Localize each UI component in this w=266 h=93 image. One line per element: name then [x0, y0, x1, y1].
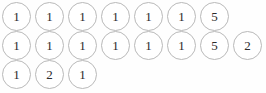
token-row: 1111115	[2, 2, 233, 31]
token-value: 1	[13, 10, 20, 23]
token-value: 5	[211, 10, 218, 23]
token-value: 1	[13, 68, 20, 81]
token-value: 2	[46, 68, 53, 81]
token-circle: 1	[68, 2, 97, 31]
token-value: 1	[79, 10, 86, 23]
token-value: 1	[46, 10, 53, 23]
token-circle: 1	[2, 2, 31, 31]
token-value: 1	[145, 10, 152, 23]
token-circle: 1	[101, 2, 130, 31]
token-circle: 2	[35, 60, 64, 89]
token-value: 1	[112, 39, 119, 52]
token-value: 2	[244, 39, 251, 52]
token-circle: 1	[2, 60, 31, 89]
token-circle: 1	[35, 31, 64, 60]
token-circle: 1	[167, 2, 196, 31]
token-circle: 1	[101, 31, 130, 60]
token-circle: 1	[134, 31, 163, 60]
token-value: 1	[145, 39, 152, 52]
token-circle: 5	[200, 31, 229, 60]
token-value: 1	[178, 39, 185, 52]
token-circle: 1	[167, 31, 196, 60]
token-value: 1	[13, 39, 20, 52]
token-row: 121	[2, 60, 101, 89]
token-value: 5	[211, 39, 218, 52]
token-circle: 2	[233, 31, 262, 60]
token-value: 1	[46, 39, 53, 52]
token-circle: 1	[134, 2, 163, 31]
token-value: 1	[178, 10, 185, 23]
token-row: 11111152	[2, 31, 266, 60]
token-circle: 1	[35, 2, 64, 31]
token-circle: 5	[200, 2, 229, 31]
token-value: 1	[79, 39, 86, 52]
token-circle: 1	[2, 31, 31, 60]
token-value: 1	[79, 68, 86, 81]
token-circle: 1	[68, 31, 97, 60]
token-grid: 111111511111152121	[0, 0, 266, 93]
token-value: 1	[112, 10, 119, 23]
token-circle: 1	[68, 60, 97, 89]
